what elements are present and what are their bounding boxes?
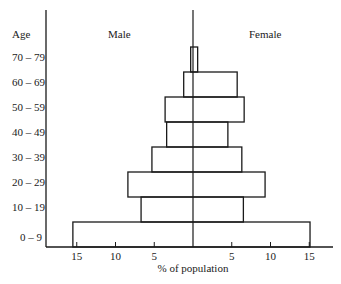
y-tick-label: 0 – 9 (20, 231, 43, 243)
bar-age-30-39 (152, 147, 242, 172)
y-tick-label: 50 – 59 (12, 101, 46, 113)
x-axis-title: % of population (158, 262, 229, 274)
y-axis-labels: 0 – 910 – 1920 – 2930 – 3940 – 4950 – 59… (12, 51, 46, 243)
y-tick-label: 20 – 29 (12, 176, 46, 188)
bar-age-20-29 (128, 172, 265, 197)
legend-male: Male (108, 28, 131, 40)
legend-female: Female (249, 28, 281, 40)
x-tick-label: 15 (304, 250, 316, 262)
x-tick-label: 5 (229, 250, 235, 262)
bars (73, 47, 310, 247)
y-axis-title: Age (12, 28, 30, 40)
bar-age-10-19 (141, 197, 243, 222)
bar-age-50-59 (165, 97, 244, 122)
y-tick-label: 40 – 49 (12, 126, 46, 138)
x-tick-label: 10 (265, 250, 277, 262)
y-tick-label: 70 – 79 (12, 51, 46, 63)
x-tick-label: 5 (152, 250, 158, 262)
y-tick-label: 10 – 19 (12, 201, 46, 213)
bar-age-40-49 (167, 122, 228, 147)
x-tick-label: 10 (110, 250, 122, 262)
bar-age-0-9 (73, 222, 310, 247)
population-pyramid-chart: 1510551015 0 – 910 – 1920 – 2930 – 3940 … (0, 0, 341, 284)
y-tick-label: 30 – 39 (12, 151, 46, 163)
bar-age-70-79 (191, 47, 198, 72)
bar-age-60-69 (184, 72, 237, 97)
x-tick-label: 15 (71, 250, 83, 262)
y-tick-label: 60 – 69 (12, 76, 46, 88)
